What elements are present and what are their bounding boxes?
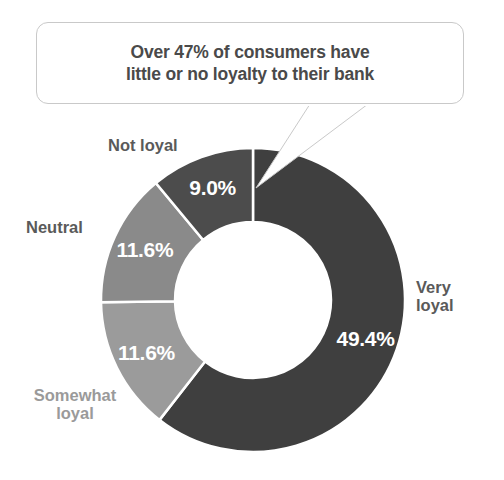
slice-label-not-loyal: Not loyal bbox=[108, 136, 178, 154]
slice-value-label: 11.6% bbox=[116, 238, 174, 261]
infographic-root: Over 47% of consumers have little or no … bbox=[0, 0, 504, 480]
slice-value-label: 9.0% bbox=[189, 176, 236, 199]
callout-box: Over 47% of consumers have little or no … bbox=[36, 22, 464, 104]
donut-slices bbox=[101, 148, 405, 452]
callout-text: Over 47% of consumers have little or no … bbox=[116, 41, 384, 86]
slice-label-neutral: Neutral bbox=[26, 218, 83, 236]
slice-label-very-loyal: Very loyal bbox=[416, 278, 454, 315]
slice-value-label: 11.6% bbox=[118, 341, 176, 364]
slice-value-label: 49.4% bbox=[337, 327, 396, 350]
slice-label-somewhat-loyal: Somewhat loyal bbox=[16, 386, 134, 423]
